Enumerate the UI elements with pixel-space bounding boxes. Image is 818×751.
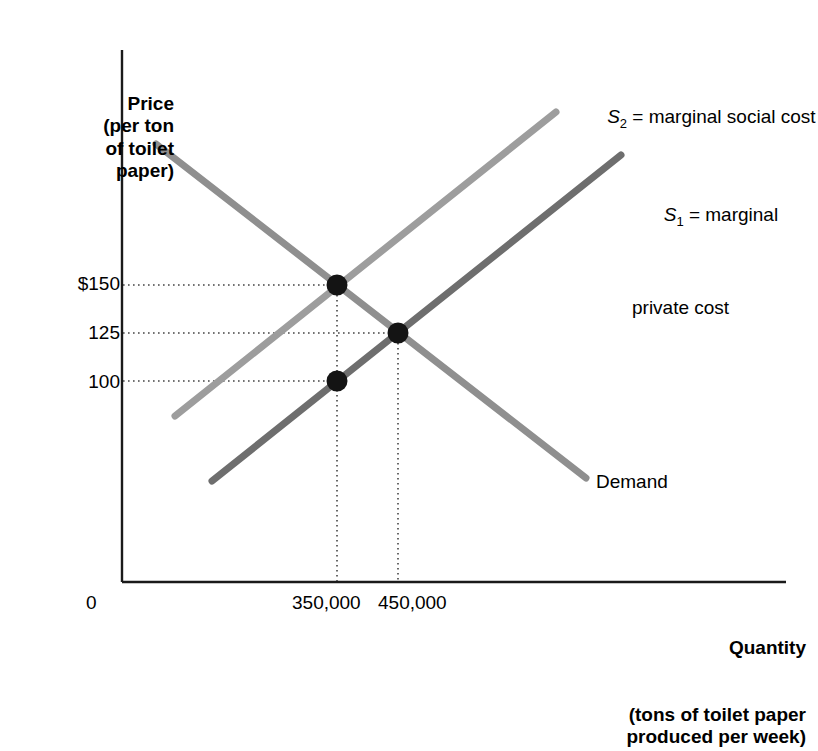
s2-marginal-social-cost-curve: [175, 112, 556, 416]
s1-marginal-private-cost-curve: [212, 155, 621, 481]
y-axis-title-line-1: Price (per ton of toilet paper): [56, 93, 174, 183]
s1-subscript: 1: [676, 214, 683, 229]
s2-description: = marginal social cost: [627, 106, 816, 127]
y-axis-title: Price (per ton of toilet paper): [56, 48, 174, 227]
s2-subscript: 2: [620, 116, 627, 131]
demand-curve-label: Demand: [596, 471, 668, 493]
x-axis-title-sub: (tons of toilet paper produced per week): [556, 704, 806, 749]
s1-description-line-1: = marginal: [684, 204, 779, 225]
x-axis-title: Quantity (tons of toilet paper produced …: [556, 592, 806, 751]
y-tick-label-100: 100: [56, 371, 120, 393]
equilibrium-dot-market: [388, 323, 409, 344]
equilibrium-dot-social-optimum: [327, 275, 348, 296]
x-tick-label-450000: 450,000: [378, 592, 447, 614]
s1-curve-label-line-1: S1 = marginal: [632, 182, 778, 252]
y-tick-label-125: 125: [56, 322, 120, 344]
s1-curve-label: S1 = marginal private cost: [632, 137, 778, 364]
x-axis-title-main: Quantity: [556, 637, 806, 659]
y-tick-label-150: $150: [56, 273, 120, 295]
s1-description-line-2: private cost: [632, 297, 778, 319]
x-tick-label-350000: 350,000: [292, 592, 361, 614]
equilibrium-dot-private-cost: [327, 371, 348, 392]
demand-curve: [156, 144, 586, 478]
s2-symbol: S: [607, 106, 620, 127]
x-tick-label-0: 0: [86, 592, 97, 614]
s1-symbol: S: [664, 204, 677, 225]
